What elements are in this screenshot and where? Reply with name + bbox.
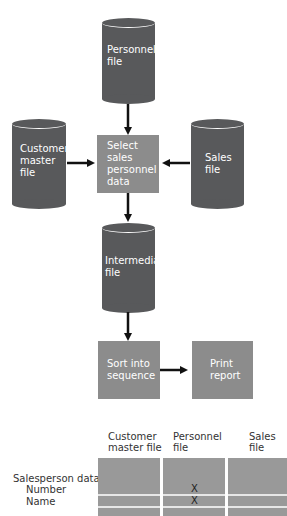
arrow-right-icon [160,364,188,376]
row-divider [228,494,287,496]
mark-personnel-name: X [191,496,198,506]
customer-master-file-label: Customer master file [20,143,69,179]
personnel-file-cylinder: Personnel file [102,18,155,104]
table-column-personnel: X X [163,458,225,516]
customer-master-file-cylinder: Customer master file [12,119,66,209]
column-header-customer-master: Customer master file [108,431,162,453]
table-column-customer-master [98,458,160,516]
print-process-label: Print report [210,358,241,382]
row-label-name: Name [26,496,56,508]
select-sales-personnel-process: Select sales personnel data [97,135,159,193]
row-divider [228,506,287,508]
print-report-process: Print report [192,341,253,399]
intermediate-file-cylinder: Intermediate file [102,223,155,313]
sales-file-cylinder: Sales file [191,119,244,209]
row-divider [98,494,160,496]
row-label-number: Number [26,484,66,496]
select-process-label: Select sales personnel data [107,140,157,188]
arrow-right-icon [67,157,95,169]
column-header-personnel: Personnel file [173,431,222,453]
arrow-left-icon [162,157,190,169]
arrow-down-icon [122,312,134,341]
sort-into-sequence-process: Sort into sequence [98,341,160,399]
personnel-file-label: Personnel file [107,44,156,68]
table-column-sales [228,458,287,516]
row-divider [98,506,160,508]
intermediate-file-label: Intermediate file [105,255,170,279]
arrow-down-icon [122,104,134,135]
row-divider [163,506,225,508]
column-header-sales: Sales file [249,431,276,453]
sales-file-label: Sales file [205,152,232,176]
sort-process-label: Sort into sequence [107,358,155,382]
mark-personnel-number: X [191,484,198,494]
arrow-down-icon [122,193,134,222]
